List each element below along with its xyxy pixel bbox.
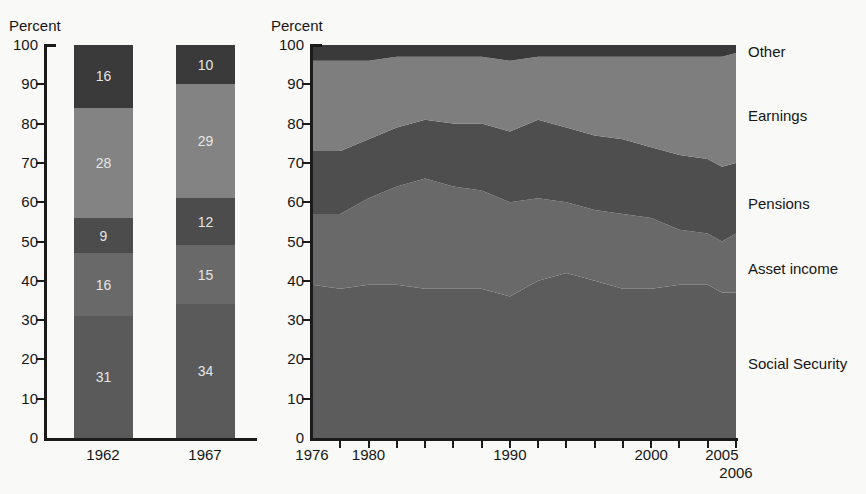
area-chart-x-axis-line xyxy=(310,438,738,441)
x-tick-label-1980: 1980 xyxy=(347,446,391,464)
y-tick-label-50: 50 xyxy=(0,233,38,251)
y-tick-label-10: 10 xyxy=(262,390,304,408)
area-chart-y-axis-top-stub xyxy=(310,44,322,47)
bar-segment-asset-income-1967: 15 xyxy=(176,245,235,304)
bar-segment-asset-income-1962: 16 xyxy=(74,253,133,316)
x-tick-mark-1996 xyxy=(594,441,596,448)
area-social-security xyxy=(312,273,736,438)
y-tick-label-100: 100 xyxy=(0,36,38,54)
y-tick-mark-50 xyxy=(36,241,44,243)
bar-segment-social-security-1967: 34 xyxy=(176,304,235,438)
bar-segment-social-security-1962: 31 xyxy=(74,316,133,438)
bar-segment-pensions-1962: 9 xyxy=(74,218,133,253)
area-chart-svg xyxy=(311,44,738,441)
bar-chart-y-axis-title: Percent xyxy=(9,17,61,34)
y-tick-mark-70 xyxy=(36,162,44,164)
y-tick-label-70: 70 xyxy=(262,154,304,172)
y-tick-label-20: 20 xyxy=(0,350,38,368)
area-label-asset-income: Asset income xyxy=(748,260,838,278)
x-tick-mark-1984 xyxy=(424,441,426,448)
y-tick-mark-30 xyxy=(302,319,310,321)
area-label-earnings: Earnings xyxy=(748,107,807,125)
x-tick-label-2006: 2006 xyxy=(714,464,758,482)
bar-segment-other-1962: 16 xyxy=(74,45,133,108)
y-tick-mark-20 xyxy=(302,358,310,360)
y-tick-label-90: 90 xyxy=(0,75,38,93)
y-tick-label-30: 30 xyxy=(0,311,38,329)
y-tick-label-90: 90 xyxy=(262,75,304,93)
y-tick-label-60: 60 xyxy=(262,193,304,211)
y-tick-mark-60 xyxy=(36,201,44,203)
y-tick-label-30: 30 xyxy=(262,311,304,329)
y-tick-mark-40 xyxy=(36,280,44,282)
y-tick-mark-50 xyxy=(302,241,310,243)
y-tick-mark-20 xyxy=(36,358,44,360)
figure-income-shares: Percent 0102030405060708090100 162891631… xyxy=(0,0,866,494)
bar-segment-value: 28 xyxy=(96,156,112,170)
x-tick-mark-1986 xyxy=(452,441,454,448)
y-tick-mark-40 xyxy=(302,280,310,282)
bar-chart-y-axis-top-stub xyxy=(44,44,56,47)
bar-1962: 162891631 xyxy=(74,45,133,438)
bar-segment-value: 29 xyxy=(198,134,214,148)
y-tick-mark-30 xyxy=(36,319,44,321)
bar-chart-y-axis-line xyxy=(44,44,47,441)
x-tick-label-1990: 1990 xyxy=(488,446,532,464)
bar-segment-value: 34 xyxy=(198,364,214,378)
x-tick-label-2005: 2005 xyxy=(700,446,744,464)
area-chart-plot-area xyxy=(311,44,738,441)
area-label-social-security: Social Security xyxy=(748,355,847,373)
bar-chart-x-axis-line xyxy=(44,438,257,441)
y-tick-label-60: 60 xyxy=(0,193,38,211)
bar-segment-value: 31 xyxy=(96,370,112,384)
x-tick-mark-1982 xyxy=(396,441,398,448)
y-tick-label-10: 10 xyxy=(0,390,38,408)
y-tick-label-100: 100 xyxy=(262,36,304,54)
bar-segment-value: 9 xyxy=(100,229,108,243)
x-tick-mark-1998 xyxy=(622,441,624,448)
bar-segment-earnings-1967: 29 xyxy=(176,84,235,198)
bar-chart-category-1962: 1962 xyxy=(73,446,133,464)
y-tick-mark-90 xyxy=(302,83,310,85)
y-tick-label-80: 80 xyxy=(0,115,38,133)
bar-segment-value: 16 xyxy=(96,69,112,83)
y-tick-label-20: 20 xyxy=(262,350,304,368)
y-tick-mark-90 xyxy=(36,83,44,85)
x-tick-label-1976: 1976 xyxy=(290,446,334,464)
x-tick-mark-1992 xyxy=(537,441,539,448)
bar-segment-value: 12 xyxy=(198,215,214,229)
area-label-pensions: Pensions xyxy=(748,195,810,213)
bar-chart-category-1967: 1967 xyxy=(175,446,235,464)
y-tick-label-0: 0 xyxy=(262,429,304,447)
bar-segment-other-1967: 10 xyxy=(176,45,235,84)
y-tick-label-40: 40 xyxy=(0,272,38,290)
x-tick-mark-1978 xyxy=(339,441,341,448)
y-tick-label-80: 80 xyxy=(262,115,304,133)
bar-segment-earnings-1962: 28 xyxy=(74,108,133,218)
area-chart-y-axis-title: Percent xyxy=(271,17,323,34)
y-tick-label-40: 40 xyxy=(262,272,304,290)
y-tick-mark-10 xyxy=(36,398,44,400)
y-tick-mark-80 xyxy=(36,123,44,125)
y-tick-mark-10 xyxy=(302,398,310,400)
y-tick-mark-80 xyxy=(302,123,310,125)
bar-segment-pensions-1967: 12 xyxy=(176,198,235,245)
area-chart-y-axis-line xyxy=(310,44,313,441)
y-tick-mark-60 xyxy=(302,201,310,203)
x-tick-mark-2002 xyxy=(678,441,680,448)
y-tick-label-50: 50 xyxy=(262,233,304,251)
x-tick-mark-1994 xyxy=(565,441,567,448)
area-label-other: Other xyxy=(748,43,786,61)
y-tick-label-70: 70 xyxy=(0,154,38,172)
y-tick-mark-70 xyxy=(302,162,310,164)
bar-segment-value: 15 xyxy=(198,268,214,282)
bar-segment-value: 16 xyxy=(96,278,112,292)
x-tick-label-2000: 2000 xyxy=(629,446,673,464)
x-tick-mark-1988 xyxy=(481,441,483,448)
y-tick-label-0: 0 xyxy=(0,429,38,447)
bar-1967: 1029121534 xyxy=(176,45,235,438)
bar-segment-value: 10 xyxy=(198,58,214,72)
